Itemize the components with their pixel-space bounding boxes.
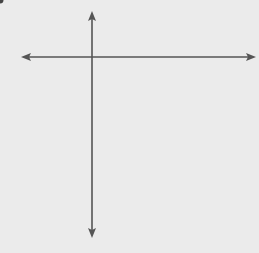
- coordinate-plane: [0, 0, 259, 253]
- center-point: [0, 0, 4, 4]
- x-axis: [21, 53, 256, 61]
- y-axis: [88, 11, 96, 238]
